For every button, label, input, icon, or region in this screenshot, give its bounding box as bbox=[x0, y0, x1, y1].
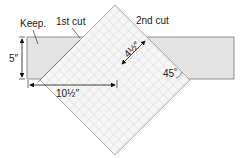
keep-label: Keep. bbox=[20, 18, 46, 29]
width-label: 10½″ bbox=[56, 88, 79, 99]
second-cut-label: 2nd cut bbox=[136, 15, 169, 26]
quilt-cutting-diagram: Keep. 1st cut 2nd cut 5″ 10½″ 4½″ 45˚ bbox=[0, 0, 249, 158]
first-cut-label: 1st cut bbox=[56, 16, 86, 27]
grid-square bbox=[40, 5, 190, 155]
angle-label: 45˚ bbox=[163, 68, 177, 79]
height-label: 5″ bbox=[9, 53, 19, 64]
